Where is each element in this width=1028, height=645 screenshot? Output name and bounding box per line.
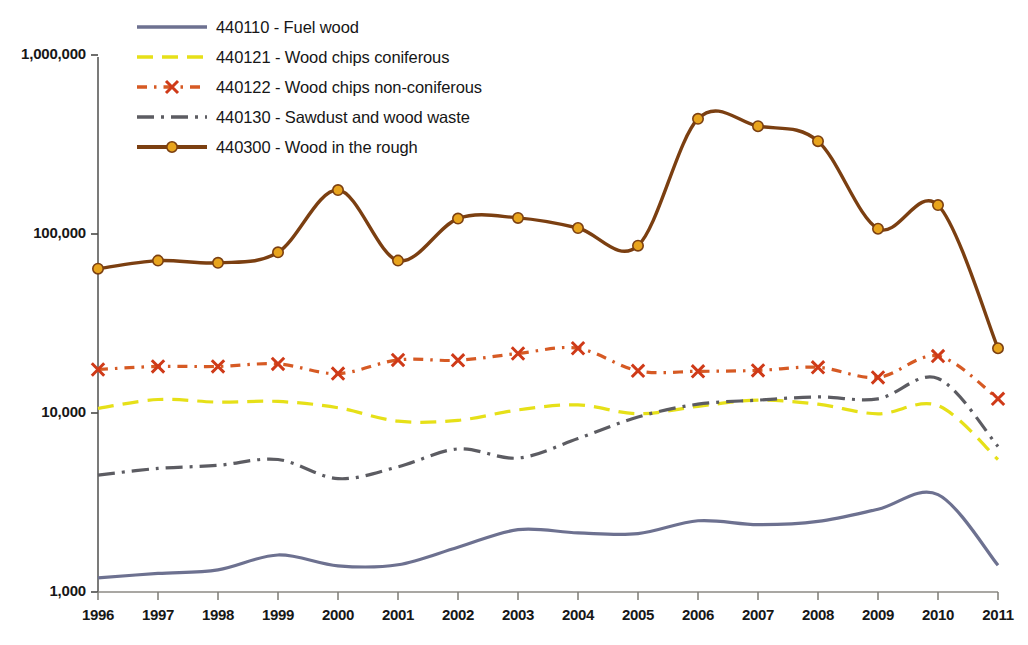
series-440122 <box>92 342 1004 405</box>
y-axis-tick-label: 10,000 <box>41 403 86 420</box>
series-440130 <box>98 377 998 479</box>
data-point-marker <box>93 263 103 273</box>
y-axis-tick-label: 1,000,000 <box>21 45 86 62</box>
data-point-marker <box>453 213 463 223</box>
data-point-marker <box>872 371 884 383</box>
data-point-marker <box>273 247 283 257</box>
chart-legend: 440110 - Fuel wood440121 - Wood chips co… <box>136 12 482 162</box>
data-point-marker <box>813 136 823 146</box>
x-axis-tick-label: 2006 <box>668 606 728 623</box>
data-point-marker <box>393 255 403 265</box>
legend-swatch-440300 <box>136 138 208 156</box>
data-point-marker <box>633 241 643 251</box>
data-point-marker <box>153 255 163 265</box>
series-440110 <box>98 492 998 578</box>
x-axis-tick-label: 2008 <box>788 606 848 623</box>
legend-label: 440122 - Wood chips non-coniferous <box>216 78 482 97</box>
legend-label: 440130 - Sawdust and wood waste <box>216 108 470 127</box>
x-axis-tick-label: 2007 <box>728 606 788 623</box>
x-axis-tick-label: 2000 <box>308 606 368 623</box>
legend-swatch-440110 <box>136 18 208 36</box>
x-axis-tick-label: 1996 <box>68 606 128 623</box>
x-axis-tick-label: 2009 <box>848 606 908 623</box>
series-line-440122 <box>98 347 998 398</box>
x-axis-tick-label: 2003 <box>488 606 548 623</box>
data-point-marker <box>993 343 1003 353</box>
data-point-marker <box>513 213 523 223</box>
legend-swatch-440130 <box>136 108 208 126</box>
legend-item-440121[interactable]: 440121 - Wood chips coniferous <box>136 42 482 72</box>
x-axis-tick-label: 2001 <box>368 606 428 623</box>
data-point-marker <box>272 358 284 370</box>
data-point-marker <box>753 121 763 131</box>
x-axis-tick-label: 2002 <box>428 606 488 623</box>
data-point-marker <box>573 223 583 233</box>
series-line-440121 <box>98 399 998 459</box>
data-point-marker <box>933 200 943 210</box>
series-440121 <box>98 399 998 459</box>
x-axis-tick-label: 1997 <box>128 606 188 623</box>
x-axis-tick-label: 2010 <box>908 606 968 623</box>
chart-series-group <box>92 111 1004 578</box>
data-point-marker <box>333 185 343 195</box>
y-axis-tick-label: 1,000 <box>49 582 86 599</box>
chart-container: 1,00010,000100,0001,000,000 199619971998… <box>0 0 1028 645</box>
x-axis-tick-label: 2004 <box>548 606 608 623</box>
x-axis-tick-label: 1999 <box>248 606 308 623</box>
legend-item-440110[interactable]: 440110 - Fuel wood <box>136 12 482 42</box>
y-axis-tick-label: 100,000 <box>33 224 86 241</box>
series-line-440130 <box>98 377 998 479</box>
legend-swatch-440121 <box>136 48 208 66</box>
legend-label: 440121 - Wood chips coniferous <box>216 48 449 67</box>
legend-item-440300[interactable]: 440300 - Wood in the rough <box>136 132 482 162</box>
x-axis-tick-label: 2011 <box>968 606 1028 623</box>
x-axis-tick-label: 2005 <box>608 606 668 623</box>
data-point-marker <box>693 114 703 124</box>
legend-label: 440300 - Wood in the rough <box>216 138 418 157</box>
data-point-marker <box>452 354 464 366</box>
data-point-marker <box>873 224 883 234</box>
x-axis-tick-label: 1998 <box>188 606 248 623</box>
data-point-marker <box>632 365 644 377</box>
data-point-marker <box>213 258 223 268</box>
legend-item-440130[interactable]: 440130 - Sawdust and wood waste <box>136 102 482 132</box>
series-line-440110 <box>98 492 998 578</box>
data-point-marker <box>992 393 1004 405</box>
legend-item-440122[interactable]: 440122 - Wood chips non-coniferous <box>136 72 482 102</box>
legend-swatch-440122 <box>136 78 208 96</box>
legend-label: 440110 - Fuel wood <box>216 18 359 37</box>
